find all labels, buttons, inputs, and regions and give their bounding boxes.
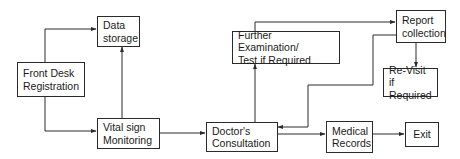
node-label: Front Desk Registration bbox=[23, 67, 79, 92]
node-data-storage: Data storage bbox=[97, 16, 140, 47]
node-report-collection: Report collection bbox=[396, 10, 446, 43]
node-label: Report collection bbox=[402, 14, 446, 39]
node-doctors-consultation: Doctor's Consultation bbox=[206, 122, 278, 152]
node-front-desk-registration: Front Desk Registration bbox=[17, 62, 85, 97]
edge-frontdesk-to-vitalsign bbox=[45, 96, 96, 131]
node-label: Vital sign Monitoring bbox=[103, 121, 152, 146]
node-revisit-if-required: Re-Visit if Required bbox=[383, 68, 438, 97]
node-vital-sign-monitoring: Vital sign Monitoring bbox=[97, 118, 160, 149]
node-further-examination: Further Examination/ Test if Required bbox=[232, 31, 340, 64]
node-exit: Exit bbox=[405, 122, 439, 147]
edge-frontdesk-to-datastorage bbox=[45, 29, 96, 62]
node-label: Doctor's Consultation bbox=[212, 125, 270, 150]
node-label: Exit bbox=[413, 128, 431, 141]
flowchart-canvas: Front Desk Registration Data storage Vit… bbox=[0, 0, 460, 159]
node-label: Further Examination/ Test if Required bbox=[238, 29, 334, 67]
node-label: Re-Visit if Required bbox=[389, 64, 432, 102]
node-label: Data storage bbox=[103, 19, 138, 44]
node-label: Medical Records bbox=[332, 125, 371, 150]
node-medical-records: Medical Records bbox=[326, 121, 373, 153]
